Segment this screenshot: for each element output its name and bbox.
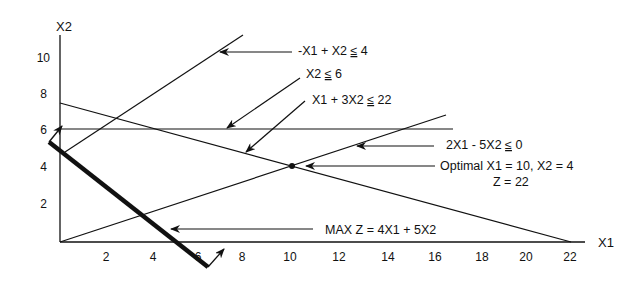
label-constraint-3: X1 + 3X2 ≤ 22 (312, 93, 392, 107)
annotation-arrows (171, 52, 435, 229)
y-tick: 6 (40, 123, 47, 137)
label-constraint-1: -X1 + X2 ≤ 4 (298, 44, 368, 58)
x-tick-labels: 2 4 6 8 10 12 14 16 18 20 22 (103, 250, 577, 264)
label-optimal: Optimal X1 = 10, X2 = 4 (440, 159, 573, 173)
x-axis-label: X1 (598, 235, 614, 250)
y-tick-labels: 2 4 6 8 10 (37, 51, 51, 211)
y-tick: 4 (40, 160, 47, 174)
x-tick: 14 (381, 250, 395, 264)
c1-lhs: -X1 + X2 (298, 44, 350, 58)
linear-programming-graph: X2 X1 2 4 6 8 10 2 4 6 8 10 12 14 16 18 … (0, 0, 642, 285)
annotation-labels: -X1 + X2 ≤ 4 X2 ≤ 6 X1 + 3X2 ≤ 22 2X1 - … (298, 44, 573, 237)
y-tick: 2 (40, 197, 47, 211)
label-optimal-z: Z = 22 (493, 175, 529, 189)
x-tick: 22 (563, 250, 577, 264)
label-constraint-2: X2 ≤ 6 (306, 67, 342, 81)
label-constraint-4: 2X1 - 5X2 ≤ 0 (446, 138, 522, 152)
x-tick: 18 (475, 250, 489, 264)
constraint-line-neg-x1-plus-x2 (65, 35, 243, 152)
label-objective: MAX Z = 4X1 + 5X2 (325, 223, 436, 237)
x-tick: 20 (519, 250, 533, 264)
y-axis-label: X2 (56, 19, 72, 34)
y-tick: 10 (37, 51, 51, 65)
x-tick: 16 (428, 250, 442, 264)
x-tick: 2 (103, 250, 110, 264)
c2-rhs: 6 (332, 67, 342, 81)
arrow-c2 (227, 78, 300, 128)
x-tick: 10 (283, 250, 297, 264)
optimal-point (289, 163, 295, 169)
x-tick: 12 (332, 250, 346, 264)
x-tick: 8 (239, 250, 246, 264)
objective-direction-arrow-bottom (208, 249, 224, 267)
x-tick: 4 (150, 250, 157, 264)
c1-rhs: 4 (357, 44, 367, 58)
c4-rhs: 0 (512, 138, 522, 152)
y-tick: 8 (40, 87, 47, 101)
c3-lhs: X1 + 3X2 (312, 93, 367, 107)
c2-lhs: X2 (306, 67, 325, 81)
c4-lhs: 2X1 - 5X2 (446, 138, 505, 152)
objective-line (49, 142, 208, 267)
c3-rhs: 22 (374, 93, 391, 107)
